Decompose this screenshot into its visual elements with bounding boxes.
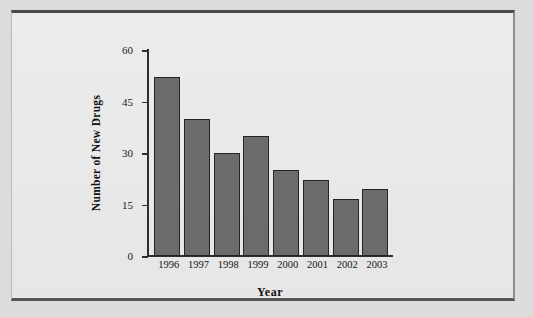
- x-axis-tick-label: 2002: [333, 259, 362, 275]
- x-axis-tick-label: 1998: [214, 259, 243, 275]
- bar-2003: [362, 189, 388, 256]
- y-axis-tick-label: 30: [122, 147, 133, 159]
- bar-2002: [333, 199, 359, 256]
- x-axis-tick-label: 1999: [243, 259, 272, 275]
- figure-canvas: Number of New Drugs 015304560 1996199719…: [12, 13, 513, 298]
- bar-series: [148, 50, 392, 256]
- bar-slot: [333, 50, 362, 256]
- y-axis-tick-label: 60: [122, 44, 133, 56]
- x-axis-title: Year: [148, 285, 392, 300]
- y-axis-title: Number of New Drugs: [90, 95, 102, 211]
- bar-slot: [362, 50, 391, 256]
- x-axis-tick-label: 1996: [154, 259, 183, 275]
- y-axis-tick-label: 45: [122, 95, 133, 107]
- x-axis-tick-label: 2000: [273, 259, 302, 275]
- y-axis-tick-label: 15: [122, 198, 133, 210]
- bar-1999: [243, 136, 269, 256]
- x-axis-tick-label: 2003: [362, 259, 391, 275]
- x-axis-tick-label: 2001: [303, 259, 332, 275]
- bar-slot: [214, 50, 243, 256]
- y-axis-tick: 0: [142, 256, 148, 258]
- bar-slot: [184, 50, 213, 256]
- bar-slot: [154, 50, 183, 256]
- figure-frame: Number of New Drugs 015304560 1996199719…: [11, 10, 515, 301]
- x-axis-tick-label: 1997: [184, 259, 213, 275]
- bar-1998: [214, 153, 240, 256]
- bar-slot: [243, 50, 272, 256]
- bar-1997: [184, 119, 210, 256]
- bar-2001: [303, 180, 329, 256]
- screenshot-page: Number of New Drugs 015304560 1996199719…: [0, 0, 533, 317]
- y-axis-tick-label: 0: [128, 250, 134, 262]
- bar-2000: [273, 170, 299, 256]
- plot-area: 015304560: [148, 50, 392, 256]
- bar-1996: [154, 77, 180, 256]
- x-axis-tick-labels: 19961997199819992000200120022003: [148, 259, 392, 275]
- bar-slot: [273, 50, 302, 256]
- bar-slot: [303, 50, 332, 256]
